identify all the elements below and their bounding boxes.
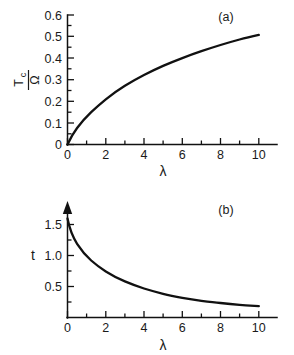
panel-b-label: (b)	[218, 203, 233, 217]
panel-a-ylabel-numerator-sub: c	[18, 72, 28, 77]
panel-b-curve	[68, 219, 259, 307]
panel-a-xtick-label-4: 8	[217, 148, 224, 162]
panel-a-xtick-label-3: 6	[179, 148, 186, 162]
chart-panel-a: 0 0.1 0.2 0.3 0.4 0.5 0.6 0 2 4 6 8 10 λ…	[0, 0, 294, 178]
panel-b-xtick-label-1: 2	[102, 321, 109, 335]
panel-a-ytick-label-6: 0.6	[45, 9, 62, 23]
panel-a-ylabel: T c Ω	[12, 70, 42, 90]
panel-a-ytick-label-4: 0.4	[45, 52, 62, 66]
panel-a-y-ticks	[68, 15, 75, 145]
panel-a-curve	[68, 35, 259, 145]
panel-a-ylabel-numerator: T	[12, 79, 26, 87]
panel-a-ytick-label-1: 0.1	[45, 117, 62, 131]
panel-a-xtick-label-5: 10	[252, 148, 266, 162]
figure-container: 0 0.1 0.2 0.3 0.4 0.5 0.6 0 2 4 6 8 10 λ…	[0, 0, 294, 355]
panel-a-ytick-label-5: 0.5	[45, 30, 62, 44]
panel-b-xtick-label-5: 10	[252, 321, 266, 335]
panel-a-xtick-label-2: 4	[141, 148, 148, 162]
panel-b-xtick-label-2: 4	[141, 321, 148, 335]
panel-b-ytick-label-0: 0.5	[45, 280, 62, 294]
chart-panel-b: 0.5 1.0 1.5 0 2 4 6 8 10 λ t (b)	[0, 177, 294, 355]
panel-b-xlabel: λ	[160, 337, 167, 353]
panel-b-xtick-label-3: 6	[179, 321, 186, 335]
panel-b-ylabel: t	[31, 247, 35, 263]
panel-a-label: (a)	[218, 10, 233, 24]
panel-a-ytick-label-3: 0.3	[45, 73, 62, 87]
panel-b-y-axis-arrow-icon	[63, 201, 72, 214]
panel-b-xtick-label-4: 8	[217, 321, 224, 335]
panel-a-ylabel-denominator: Ω	[28, 75, 42, 84]
panel-a-ytick-label-0: 0	[55, 138, 62, 152]
panel-a-ytick-label-2: 0.2	[45, 95, 62, 109]
panel-b-xtick-label-0: 0	[64, 321, 71, 335]
panel-b-ytick-label-1: 1.0	[45, 249, 62, 263]
panel-a-svg: 0 0.1 0.2 0.3 0.4 0.5 0.6 0 2 4 6 8 10 λ…	[0, 0, 294, 178]
panel-b-svg: 0.5 1.0 1.5 0 2 4 6 8 10 λ t (b)	[0, 177, 294, 355]
panel-b-ytick-label-2: 1.5	[45, 218, 62, 232]
panel-a-xlabel: λ	[160, 163, 167, 178]
panel-a-xtick-label-0: 0	[64, 148, 71, 162]
panel-a-xtick-label-1: 2	[102, 148, 109, 162]
